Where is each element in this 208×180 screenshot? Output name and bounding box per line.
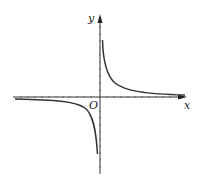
curve-branch-quadrant-1	[103, 40, 186, 95]
curve-branch-quadrant-3	[15, 99, 98, 154]
origin-label: O	[89, 99, 98, 112]
graph-canvas: y x O	[0, 0, 208, 180]
y-axis-label: y	[87, 12, 95, 25]
y-axis	[98, 14, 103, 174]
y-axis-arrow-icon	[98, 14, 103, 23]
x-axis-label: x	[184, 99, 191, 112]
